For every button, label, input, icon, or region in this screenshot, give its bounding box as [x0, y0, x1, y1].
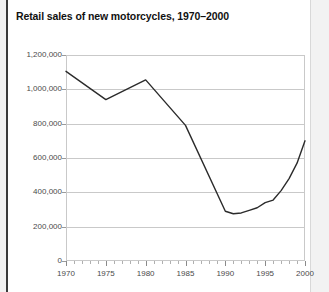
x-axis-tick-minor	[90, 261, 91, 264]
x-axis-tick-minor	[122, 261, 123, 264]
page-title: Retail sales of new motorcycles, 1970–20…	[16, 10, 229, 22]
x-axis-tick-major	[66, 261, 67, 266]
x-axis-tick-minor	[138, 261, 139, 264]
plot-area	[66, 55, 305, 261]
x-axis-tick-minor	[74, 261, 75, 264]
x-axis: 1970197519801985199019952000	[66, 261, 305, 291]
x-axis-tick-minor	[201, 261, 202, 264]
series-path	[66, 71, 305, 213]
panel-right-rule	[310, 0, 311, 292]
x-axis-tick-minor	[289, 261, 290, 264]
x-axis-tick-minor	[170, 261, 171, 264]
x-axis-tick-minor	[273, 261, 274, 264]
x-axis-tick-label: 2000	[285, 269, 325, 278]
x-axis-tick-minor	[297, 261, 298, 264]
x-axis-tick-minor	[82, 261, 83, 264]
x-axis-tick-minor	[249, 261, 250, 264]
x-axis-tick-label: 1990	[205, 269, 245, 278]
x-axis-tick-major	[265, 261, 266, 266]
series-line-motorcycle-sales	[66, 55, 305, 261]
x-axis-tick-minor	[233, 261, 234, 264]
x-axis-tick-minor	[154, 261, 155, 264]
chart-figure: Retail sales of new motorcycles, 1970–20…	[0, 0, 329, 292]
x-axis-tick-minor	[241, 261, 242, 264]
x-axis-tick-label: 1985	[166, 269, 206, 278]
x-axis-tick-major	[305, 261, 306, 266]
x-axis-tick-minor	[130, 261, 131, 264]
x-axis-tick-minor	[217, 261, 218, 264]
x-axis-tick-minor	[98, 261, 99, 264]
x-axis-tick-label: 1980	[126, 269, 166, 278]
x-axis-tick-minor	[193, 261, 194, 264]
x-axis-tick-minor	[114, 261, 115, 264]
x-axis-tick-label: 1970	[46, 269, 86, 278]
x-axis-tick-major	[186, 261, 187, 266]
x-axis-tick-label: 1975	[86, 269, 126, 278]
x-axis-tick-minor	[162, 261, 163, 264]
x-axis-tick-major	[146, 261, 147, 266]
x-axis-tick-major	[106, 261, 107, 266]
x-axis-tick-minor	[209, 261, 210, 264]
x-axis-tick-major	[225, 261, 226, 266]
x-axis-tick-minor	[257, 261, 258, 264]
x-axis-tick-label: 1995	[245, 269, 285, 278]
x-axis-tick-minor	[281, 261, 282, 264]
x-axis-tick-minor	[178, 261, 179, 264]
y-axis-ticks	[0, 55, 66, 261]
